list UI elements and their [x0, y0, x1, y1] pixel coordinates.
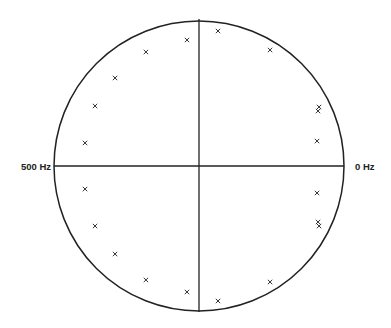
- marker-x-16: [268, 280, 272, 284]
- marker-x-10: [83, 187, 87, 191]
- marker-x-11: [93, 224, 97, 228]
- marker-x-15: [216, 299, 220, 303]
- marker-x-14: [185, 290, 189, 294]
- marker-x-2: [113, 76, 117, 80]
- marker-x-0: [185, 38, 189, 42]
- marker-x-6: [268, 48, 272, 52]
- marker-x-3: [93, 104, 97, 108]
- marker-x-4: [83, 141, 87, 145]
- unit-circle-diagram: 500 Hz 0 Hz: [0, 0, 391, 328]
- marker-x-18: [316, 220, 320, 224]
- marker-x-13: [144, 278, 148, 282]
- label-0hz: 0 Hz: [355, 161, 375, 172]
- marker-x-1: [144, 50, 148, 54]
- marker-x-12: [113, 252, 117, 256]
- marker-x-5: [216, 29, 220, 33]
- marker-x-8: [316, 109, 320, 113]
- marker-x-7: [317, 105, 321, 109]
- label-500hz: 500 Hz: [21, 161, 51, 172]
- marker-x-19: [317, 224, 321, 228]
- marker-x-9: [315, 139, 319, 143]
- marker-x-17: [315, 191, 319, 195]
